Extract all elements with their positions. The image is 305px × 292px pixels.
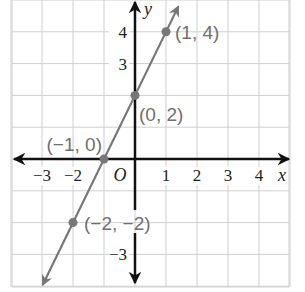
point-label: (0, 2) (139, 104, 183, 125)
y-tick-label: 3 (119, 55, 128, 74)
x-tick-label: 4 (255, 166, 264, 185)
point-label: (−1, 0) (47, 134, 102, 155)
x-tick-label: 2 (193, 166, 202, 185)
coordinate-plane-chart: −3−2123443−3Oxy (1, 4)(0, 2)(−1, 0)(−2, … (0, 0, 305, 292)
x-tick-label: 3 (224, 166, 233, 185)
origin-label: O (114, 165, 127, 185)
y-tick-label: 4 (119, 23, 128, 42)
x-tick-label: −2 (64, 166, 82, 185)
x-tick-label: −3 (33, 166, 51, 185)
point-label: (−2, −2) (84, 213, 151, 234)
x-tick-label: 1 (162, 166, 171, 185)
y-tick-label: −3 (109, 245, 127, 264)
data-point (69, 218, 78, 227)
data-point (131, 91, 140, 100)
y-axis-label: y (142, 0, 152, 19)
data-point (100, 155, 109, 164)
point-label: (1, 4) (175, 22, 219, 43)
x-axis-label: x (277, 165, 286, 185)
data-point (162, 27, 171, 36)
